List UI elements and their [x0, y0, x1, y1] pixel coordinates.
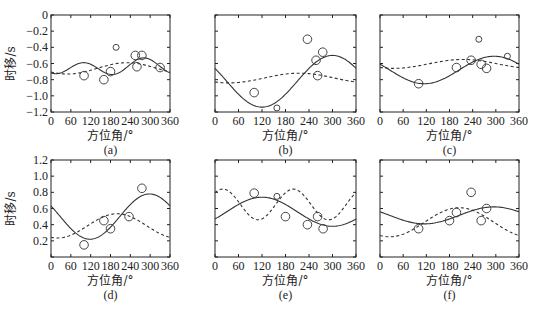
x-tick-label: 360 [510, 259, 528, 273]
x-tick-label: 240 [300, 259, 318, 273]
panel-f: 060120180240300360方位角/°(f) [377, 160, 528, 302]
x-tick-label: 60 [65, 114, 77, 128]
x-tick-label: 300 [487, 259, 505, 273]
x-tick-label: 300 [324, 259, 342, 273]
data-point [313, 212, 322, 221]
data-point [156, 63, 165, 72]
x-tick-label: 180 [277, 259, 295, 273]
plot-frame [215, 15, 356, 112]
panel-b: 060120180240300360方位角/°(b) [212, 15, 365, 157]
y-tick-label: 0.4 [33, 218, 48, 232]
x-tick-label: 300 [141, 114, 159, 128]
data-point [452, 208, 461, 217]
x-tick-label: 180 [441, 259, 459, 273]
x-tick-label: 180 [277, 114, 295, 128]
x-tick-label: 360 [161, 259, 179, 273]
y-tick-label: 0.2 [33, 234, 48, 248]
data-point [106, 224, 115, 233]
x-tick-label: 120 [417, 114, 435, 128]
x-tick-label: 120 [82, 259, 100, 273]
x-tick-label: 60 [65, 259, 77, 273]
y-tick-label: −0.2 [26, 24, 48, 38]
y-tick-label: −1.2 [26, 105, 48, 119]
data-point [467, 56, 476, 65]
x-axis-title: 方位角/° [426, 128, 472, 143]
y-tick-label: −0.4 [26, 40, 48, 54]
x-tick-label: 60 [233, 259, 245, 273]
panel-a: 0601201802403003600−0.2−0.4−0.6−0.8−1.0−… [4, 8, 179, 157]
x-tick-label: 0 [212, 114, 218, 128]
panel-c: 060120180240300360方位角/°(c) [377, 15, 528, 157]
x-axis-title: 方位角/° [426, 273, 472, 288]
x-tick-label: 0 [48, 114, 54, 128]
x-tick-label: 0 [377, 259, 383, 273]
data-point [80, 241, 89, 250]
x-tick-label: 180 [102, 114, 120, 128]
x-tick-label: 240 [464, 259, 482, 273]
data-point [100, 216, 109, 225]
dashed-fit-curve [380, 59, 519, 68]
y-tick-label: 0.8 [33, 185, 48, 199]
data-point [303, 220, 312, 229]
data-point [100, 75, 109, 84]
data-point [482, 64, 491, 73]
y-tick-label: −1.0 [26, 89, 48, 103]
x-tick-label: 0 [48, 259, 54, 273]
data-point [303, 35, 312, 44]
plot-frame [215, 160, 356, 257]
data-point [250, 189, 259, 198]
data-point [313, 71, 322, 80]
x-tick-label: 240 [121, 114, 139, 128]
data-point [106, 67, 115, 76]
x-tick-label: 60 [233, 114, 245, 128]
x-tick-label: 0 [377, 114, 383, 128]
dashed-fit-curve [215, 73, 356, 83]
x-axis-title: 方位角/° [87, 273, 133, 288]
data-point [312, 56, 321, 65]
panel-e: 060120180240300360方位角/°(e) [212, 160, 365, 302]
x-tick-label: 360 [347, 114, 365, 128]
x-axis-title: 方位角/° [262, 273, 308, 288]
x-tick-label: 120 [82, 114, 100, 128]
data-point [319, 224, 328, 233]
data-point [482, 204, 491, 213]
data-point [476, 36, 482, 42]
panel-label: (c) [443, 143, 456, 157]
x-tick-label: 60 [397, 259, 409, 273]
data-point [138, 51, 147, 60]
x-tick-label: 180 [441, 114, 459, 128]
data-point [318, 48, 327, 57]
x-tick-label: 360 [347, 259, 365, 273]
x-tick-label: 300 [141, 259, 159, 273]
solid-fit-curve [215, 55, 356, 107]
data-point [467, 188, 476, 197]
x-tick-label: 360 [510, 114, 528, 128]
x-tick-label: 60 [397, 114, 409, 128]
data-point [133, 62, 142, 71]
y-tick-label: 1.0 [33, 169, 48, 183]
data-point [414, 79, 423, 88]
x-tick-label: 0 [212, 259, 218, 273]
plot-frame [51, 15, 170, 112]
plot-frame [380, 160, 519, 257]
panel-label: (d) [104, 288, 118, 302]
solid-fit-curve [215, 197, 356, 226]
data-point [445, 216, 454, 225]
y-tick-label: −0.8 [26, 73, 48, 87]
y-tick-label: −0.6 [26, 57, 48, 71]
data-point [250, 88, 259, 97]
x-tick-label: 300 [487, 114, 505, 128]
panel-d: 0601201802403003600.20.40.60.81.01.2方位角/… [4, 153, 179, 302]
x-tick-label: 120 [253, 259, 271, 273]
data-point [414, 224, 423, 233]
figure: 0601201802403003600−0.2−0.4−0.6−0.8−1.0−… [0, 0, 538, 312]
x-tick-label: 360 [161, 114, 179, 128]
solid-fit-curve [380, 56, 519, 83]
x-axis-title: 方位角/° [87, 128, 133, 143]
x-tick-label: 240 [121, 259, 139, 273]
y-tick-label: 0 [42, 8, 48, 22]
data-point [125, 212, 134, 221]
y-tick-label: 1.2 [33, 153, 48, 167]
x-axis-title: 方位角/° [262, 128, 308, 143]
x-tick-label: 180 [102, 259, 120, 273]
